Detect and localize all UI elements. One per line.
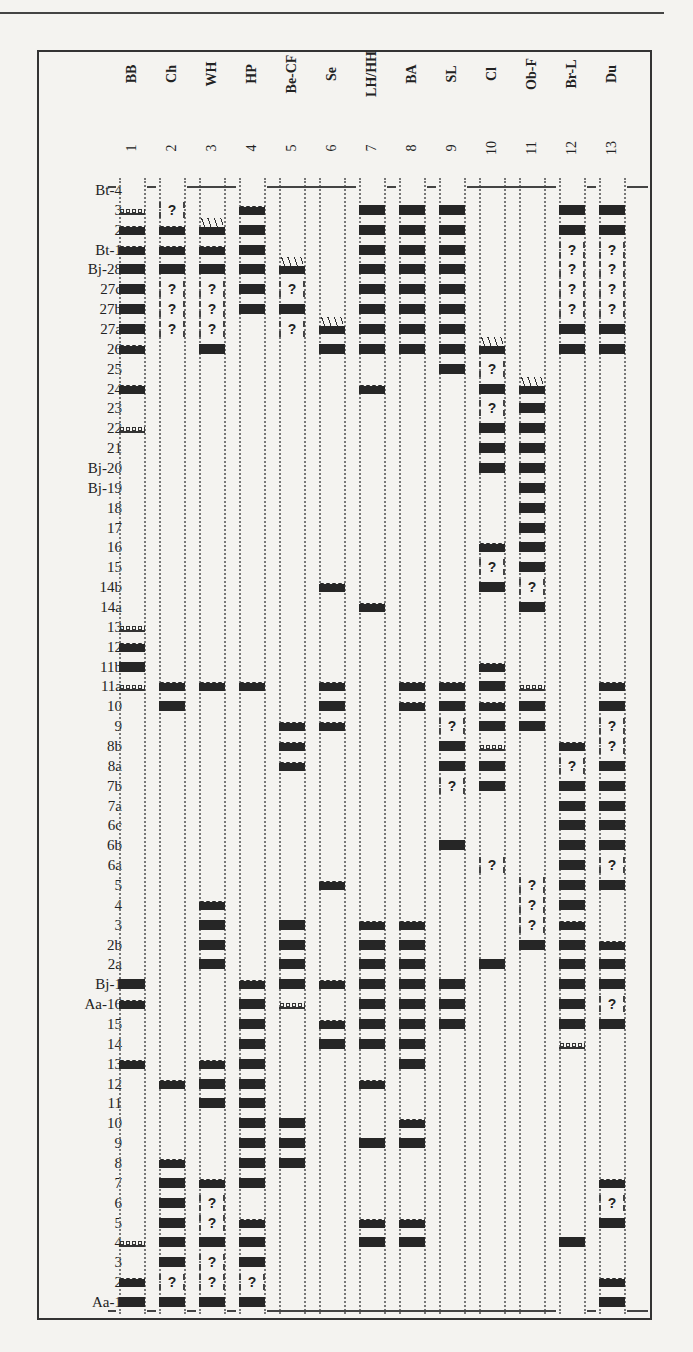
row-label: Aa-1 [44, 1294, 122, 1310]
range-cell-wave [319, 882, 345, 890]
range-cell-bar [359, 979, 385, 989]
range-cell-wave [159, 1160, 185, 1168]
column-name: WH [204, 44, 220, 104]
range-cell-bar [239, 264, 265, 274]
range-cell-bar [519, 403, 545, 413]
range-cell-bar [599, 761, 625, 771]
range-cell-bar [279, 940, 305, 950]
range-cell-bar [399, 999, 425, 1009]
column-number: 3 [204, 133, 220, 163]
range-cell-bar [599, 1297, 625, 1307]
range-cell-bar [319, 344, 345, 354]
range-cell-bar [359, 999, 385, 1009]
range-cell-wave [599, 1279, 625, 1287]
range-cell-wave [359, 386, 385, 394]
range-cell-q: ? [559, 242, 585, 258]
row-label: 21 [44, 440, 122, 456]
range-cell-bar [479, 384, 505, 394]
range-cell-bar [359, 284, 385, 294]
column-number: 8 [404, 133, 420, 163]
row-label: 6c [44, 817, 122, 833]
column-number: 12 [564, 133, 580, 163]
boundary-line [187, 1310, 196, 1312]
range-cell-wave [319, 1021, 345, 1029]
range-cell-bar [359, 264, 385, 274]
range-cell-bar [399, 205, 425, 215]
range-cell-bar [559, 840, 585, 850]
range-cell-bar [239, 1257, 265, 1267]
range-cell-bar [599, 781, 625, 791]
range-cell-bar [199, 1098, 225, 1108]
range-cell-bar [239, 1019, 265, 1029]
range-cell-bar [479, 681, 505, 691]
range-cell-bar [359, 940, 385, 950]
range-cell-bar [359, 959, 385, 969]
column-name: HP [244, 44, 260, 104]
range-cell-wave [239, 683, 265, 691]
row-label: 2 [44, 222, 122, 238]
range-cell-bar [439, 225, 465, 235]
range-cell-wave [159, 227, 185, 235]
column-number: 2 [164, 133, 180, 163]
row-label: Bj-19 [44, 480, 122, 496]
range-cell-q: ? [519, 579, 545, 595]
range-cell-q: ? [159, 281, 185, 297]
range-cell-bar [239, 999, 265, 1009]
range-cell-bar [479, 721, 505, 731]
range-cell-bubble [119, 684, 145, 691]
range-cell-bar [239, 1059, 265, 1069]
column-name: LH/HH [364, 44, 380, 104]
range-cell-bar [559, 820, 585, 830]
range-cell-bar [599, 840, 625, 850]
range-cell-bar [599, 979, 625, 989]
range-cell-bar [239, 1138, 265, 1148]
column-guide-line [544, 178, 546, 1314]
range-cell-bar [479, 582, 505, 592]
row-label: 12 [44, 639, 122, 655]
range-cell-bar [119, 324, 145, 334]
range-cell-bar [399, 1039, 425, 1049]
column-number: 13 [604, 133, 620, 163]
range-cell-wave [119, 386, 145, 394]
range-cell-bar [399, 1237, 425, 1247]
range-cell-bar [199, 264, 225, 274]
range-cell-bar [439, 304, 465, 314]
row-label: 22 [44, 420, 122, 436]
range-cell-wave [119, 1279, 145, 1287]
range-cell-q: ? [479, 361, 505, 377]
range-cell-bar [279, 979, 305, 989]
row-label: 12 [44, 1076, 122, 1092]
range-cell-wave [319, 723, 345, 731]
row-label: 6a [44, 857, 122, 873]
row-label: Aa-16 [44, 996, 122, 1012]
range-cell-bar [159, 1297, 185, 1307]
column-name: Ch [164, 44, 180, 104]
range-cell-bar [239, 1297, 265, 1307]
range-cell-q: ? [439, 718, 465, 734]
range-cell-q: ? [439, 778, 465, 794]
column-name: Se [324, 44, 340, 104]
range-cell-bar [439, 264, 465, 274]
range-cell-q: ? [479, 400, 505, 416]
range-cell-bar [599, 344, 625, 354]
range-cell-q: ? [159, 1274, 185, 1290]
column-name: SL [444, 44, 460, 104]
column-number: 1 [124, 133, 140, 163]
boundary-line [427, 186, 436, 188]
range-cell-bar [119, 264, 145, 274]
range-cell-wave [119, 346, 145, 354]
row-label: 27a [44, 321, 122, 337]
range-cell-bar [159, 1257, 185, 1267]
range-cell-bar [399, 344, 425, 354]
range-cell-bar [399, 304, 425, 314]
range-cell-wave [239, 207, 265, 215]
range-cell-bar [559, 940, 585, 950]
range-cell-wave [119, 1061, 145, 1069]
boundary-line [227, 1310, 236, 1312]
row-label: 5 [44, 1215, 122, 1231]
range-cell-bar [439, 999, 465, 1009]
range-cell-bar [279, 920, 305, 930]
range-cell-wave [279, 723, 305, 731]
row-label: 14a [44, 599, 122, 615]
row-label: 15 [44, 1016, 122, 1032]
